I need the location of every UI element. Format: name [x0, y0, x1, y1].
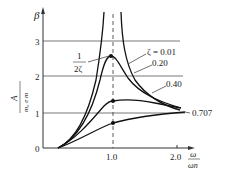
y-label-denominator: m₀ e m	[22, 93, 30, 112]
x-label-numerator: ω	[190, 149, 196, 159]
y-tick-2: 2	[35, 72, 40, 82]
marker-zeta-0.40	[111, 99, 115, 103]
label-zeta-0.40: 0.40	[166, 79, 182, 89]
peak-annotation-denominator: 2ζ	[74, 64, 83, 74]
label-zeta-0.20: 0.20	[152, 58, 168, 68]
peak-annotation-numerator: 1	[77, 51, 82, 61]
y-axis-label: A m₀ e m	[9, 81, 30, 113]
y-label-numerator: A	[9, 95, 19, 102]
marker-zeta-0.707	[111, 121, 115, 125]
resonance-chart: β 3 2 1 0 1.0 2.0 ω ωn A m₀ e m 1 2ζ ζ =…	[0, 0, 227, 177]
marker-zeta-0.20	[109, 54, 113, 58]
curve-zeta-0.01-right	[121, 12, 180, 110]
y-axis-arrow-icon	[41, 7, 45, 14]
x-label-denominator: ωn	[188, 161, 198, 170]
x-tick-1: 1.0	[106, 152, 118, 162]
y-tick-0: 0	[35, 144, 40, 154]
x-tick-2: 2.0	[170, 152, 182, 162]
peak-markers	[109, 54, 115, 125]
label-zeta-0.01: ζ = 0.01	[147, 47, 176, 57]
y-axis-symbol: β	[33, 9, 40, 21]
y-tick-3: 3	[35, 37, 40, 47]
y-tick-1: 1	[35, 109, 40, 119]
label-zeta-0.707: 0.707	[192, 108, 213, 118]
